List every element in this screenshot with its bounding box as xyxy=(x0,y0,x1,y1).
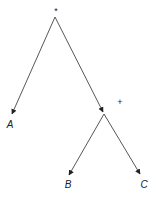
leaf-c: C xyxy=(140,179,148,190)
node-root-multiply: * xyxy=(54,6,58,16)
edge-plus-to-c xyxy=(104,114,140,174)
expression-tree-diagram: * + A B C xyxy=(0,0,156,197)
edge-root-to-a xyxy=(12,17,55,114)
edge-plus-to-b xyxy=(69,114,104,175)
leaf-a: A xyxy=(6,119,14,130)
leaf-b: B xyxy=(65,179,72,190)
node-plus: + xyxy=(117,97,122,107)
edge-root-to-plus xyxy=(55,17,103,112)
